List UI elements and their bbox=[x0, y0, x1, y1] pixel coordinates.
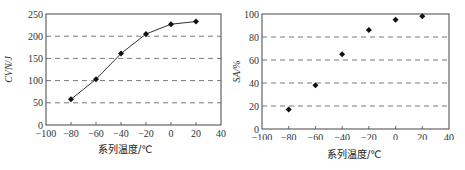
x-tick-label: 40 bbox=[444, 132, 454, 140]
y-tick-label: 100 bbox=[28, 75, 43, 86]
x-tick-label: −40 bbox=[334, 132, 350, 140]
x-tick-label: −100 bbox=[252, 132, 273, 140]
x-tick-label: −20 bbox=[361, 132, 377, 140]
y-tick-label: 40 bbox=[249, 78, 259, 89]
x-tick-label: 0 bbox=[393, 132, 398, 140]
data-point-marker bbox=[339, 51, 345, 57]
sa-plot: 020406080100−100−80−60−40−2002040SA/% bbox=[232, 0, 465, 140]
y-tick-label: 100 bbox=[244, 9, 259, 20]
y-tick-label: 50 bbox=[33, 97, 43, 108]
data-point-marker bbox=[193, 19, 199, 25]
y-axis-label: SA/% bbox=[232, 60, 242, 82]
cvn-x-axis-label: 系列温度/℃ bbox=[98, 141, 153, 156]
y-tick-label: 80 bbox=[249, 32, 259, 43]
cvn-chart: 050100150200250−100−80−60−40−2002040CVN/… bbox=[0, 0, 232, 170]
x-tick-label: −60 bbox=[88, 128, 104, 139]
x-tick-label: 0 bbox=[169, 128, 174, 139]
data-point-marker bbox=[366, 27, 372, 33]
plot-frame bbox=[262, 14, 449, 129]
x-tick-label: −80 bbox=[281, 132, 297, 140]
y-tick-label: 60 bbox=[249, 55, 259, 66]
x-tick-label: 20 bbox=[191, 128, 201, 139]
x-tick-label: −100 bbox=[36, 128, 57, 139]
y-tick-label: 150 bbox=[28, 53, 43, 64]
data-point-marker bbox=[393, 17, 399, 23]
sa-x-axis-label: 系列温度/℃ bbox=[327, 146, 382, 161]
sa-chart: 020406080100−100−80−60−40−2002040SA/% 系列… bbox=[232, 0, 465, 170]
y-tick-label: 20 bbox=[249, 101, 259, 112]
x-tick-label: 20 bbox=[417, 132, 427, 140]
x-tick-label: −60 bbox=[308, 132, 324, 140]
plot-frame bbox=[46, 14, 221, 125]
y-tick-label: 200 bbox=[28, 31, 43, 42]
cvn-plot: 050100150200250−100−80−60−40−2002040CVN/… bbox=[0, 0, 232, 140]
x-tick-label: −80 bbox=[63, 128, 79, 139]
y-tick-label: 250 bbox=[28, 9, 43, 20]
x-tick-label: 40 bbox=[216, 128, 226, 139]
y-axis-label: CVN/J bbox=[3, 56, 14, 83]
data-point-marker bbox=[286, 106, 292, 112]
data-point-marker bbox=[168, 21, 174, 27]
series-line bbox=[71, 22, 196, 100]
x-tick-label: −20 bbox=[138, 128, 154, 139]
x-tick-label: −40 bbox=[113, 128, 129, 139]
